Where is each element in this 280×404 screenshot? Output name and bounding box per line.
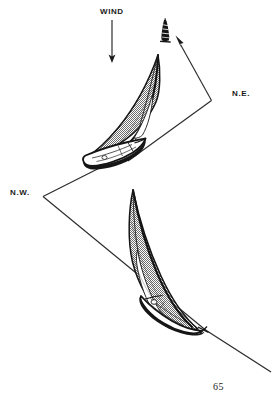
sailing-diagram [0, 0, 280, 404]
page-number: 65 [213, 381, 224, 392]
wind-arrow [109, 20, 116, 63]
distant-boat-icon [160, 18, 171, 42]
trailing-course-line [204, 329, 271, 372]
northwest-label: N.W. [10, 189, 30, 197]
lower-sailboat [129, 190, 208, 336]
figure-page: WIND N.E. N.W. 65 [0, 0, 280, 404]
northeast-label: N.E. [232, 90, 250, 98]
upper-sailboat [83, 55, 160, 170]
wind-label: WIND [100, 8, 124, 16]
northwest-course-line [43, 167, 206, 330]
